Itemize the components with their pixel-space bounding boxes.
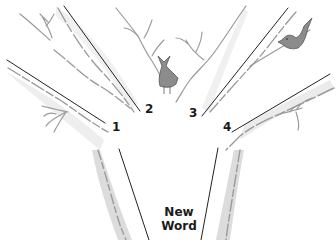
trunk-label-word: Word bbox=[149, 219, 209, 233]
bird-icon-right bbox=[278, 18, 312, 49]
tree-diagram bbox=[0, 0, 336, 240]
branch-label-1: 1 bbox=[112, 121, 120, 133]
branch-label-2: 2 bbox=[145, 103, 153, 115]
branch-1 bbox=[6, 60, 108, 150]
branch-label-3: 3 bbox=[189, 107, 197, 119]
branch-4 bbox=[226, 74, 334, 150]
bird-icon-center bbox=[158, 56, 178, 94]
trunk-label-new: New bbox=[149, 205, 209, 219]
branch-label-4: 4 bbox=[223, 121, 231, 133]
